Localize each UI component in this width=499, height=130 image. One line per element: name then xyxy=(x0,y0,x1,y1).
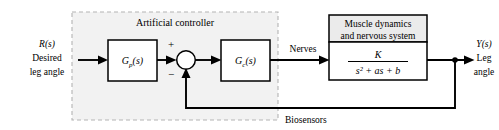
artificial-controller-label: Artificial controller xyxy=(136,17,215,28)
arrowhead-controller-to-plant xyxy=(319,56,330,65)
plant-numerator: K xyxy=(374,49,383,60)
nerves-signal-label: Nerves xyxy=(290,44,317,54)
input-description-line1: Desired xyxy=(32,53,62,63)
output-description-line2: angle xyxy=(474,67,495,77)
summing-junction-plus-sign: + xyxy=(168,38,174,50)
biosensors-signal-label: Biosensors xyxy=(285,115,327,125)
controller-argument: (s) xyxy=(245,55,256,67)
block-diagram-canvas: Artificial controller R(s) Desired leg a… xyxy=(0,0,499,130)
arrowhead-output xyxy=(464,56,475,65)
input-symbol-label: R(s) xyxy=(38,39,55,50)
plant-title-line2: and nervous system xyxy=(341,31,417,41)
input-description-line2: leg angle xyxy=(30,67,65,77)
output-symbol-label: Y(s) xyxy=(476,39,491,50)
prefilter-argument: (s) xyxy=(133,55,144,67)
plant-denominator: s² + as + b xyxy=(356,65,400,76)
prefilter-symbol: G xyxy=(122,55,129,66)
plant-title-line1: Muscle dynamics xyxy=(345,19,412,29)
summing-junction-minus-sign: − xyxy=(168,68,174,80)
output-description-line1: Leg xyxy=(477,53,492,63)
summing-junction xyxy=(177,51,196,70)
block-diagram-svg: Artificial controller R(s) Desired leg a… xyxy=(0,0,499,130)
controller-symbol: G xyxy=(235,55,242,66)
